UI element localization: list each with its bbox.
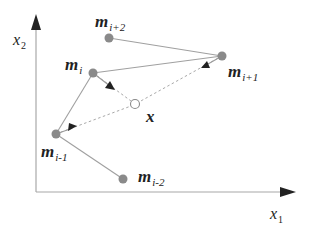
node-m-i-plus-1 (218, 52, 227, 61)
label-m-i-minus-1: mi-1 (41, 142, 67, 163)
edge-mi2-mi1 (109, 38, 222, 56)
label-x: x (145, 107, 155, 126)
label-m-i: mi (65, 55, 82, 76)
node-x-input (131, 100, 140, 109)
diagram-canvas: mi+2 mi mi+1 x mi-1 mi-2 x1 x2 (0, 0, 311, 231)
axes (31, 14, 296, 197)
arrow-mi1-to-x-icon (201, 61, 210, 68)
node-m-i-minus-1 (52, 130, 61, 139)
axis-label-x1: x1 (269, 205, 283, 225)
label-m-i-plus-2: mi+2 (95, 12, 126, 33)
edge-mi-mi1 (93, 56, 222, 73)
solid-edges (56, 38, 222, 179)
y-axis-arrowhead-icon (31, 14, 41, 30)
node-m-i (89, 69, 98, 78)
node-m-i-minus-2 (119, 175, 128, 184)
label-m-i-minus-2: mi-2 (138, 167, 165, 188)
axis-label-x2: x2 (12, 31, 26, 51)
edge-mi-mim1 (56, 73, 93, 134)
x-axis-arrowhead-icon (280, 187, 296, 197)
label-m-i-plus-1: mi+1 (228, 62, 258, 83)
node-m-i-plus-2 (105, 34, 114, 43)
